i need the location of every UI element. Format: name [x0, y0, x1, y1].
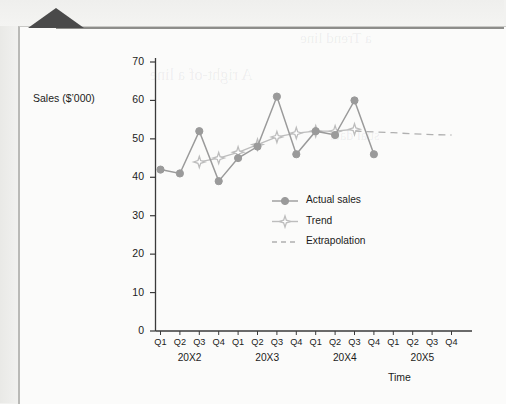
- y-tick-label: 70: [118, 55, 144, 67]
- year-group-label: 20X2: [160, 352, 220, 363]
- quarter-tick-label: Q3: [422, 337, 442, 347]
- y-tick-label: 0: [118, 324, 144, 336]
- series-trend: [194, 124, 360, 168]
- quarter-tick-label: Q3: [189, 337, 209, 347]
- quarter-tick-label: Q4: [442, 337, 462, 347]
- year-group-label: 20X5: [392, 352, 452, 363]
- quarter-tick-label: Q1: [151, 337, 171, 347]
- y-tick-label: 30: [118, 209, 144, 221]
- y-tick-label: 60: [118, 93, 144, 105]
- quarter-tick-label: Q2: [248, 337, 268, 347]
- series-extrapolation: [355, 131, 452, 135]
- y-axis-title: Sales ($’000): [33, 92, 95, 104]
- quarter-tick-label: Q3: [267, 337, 287, 347]
- quarter-tick-label: Q1: [228, 337, 248, 347]
- y-tick-label: 10: [118, 286, 144, 298]
- series-actual-sales: [157, 93, 378, 185]
- quarter-tick-label: Q3: [345, 337, 365, 347]
- y-tick-label: 20: [118, 247, 144, 259]
- year-group-label: 20X3: [237, 352, 297, 363]
- legend-item-label: Actual sales: [306, 194, 361, 205]
- x-axis-title: Time: [388, 371, 411, 383]
- quarter-tick-label: Q1: [306, 337, 326, 347]
- quarter-tick-label: Q2: [325, 337, 345, 347]
- quarter-tick-label: Q4: [364, 337, 384, 347]
- quarter-tick-label: Q1: [383, 337, 403, 347]
- quarter-tick-label: Q2: [403, 337, 423, 347]
- y-tick-label: 50: [118, 132, 144, 144]
- quarter-tick-label: Q4: [209, 337, 229, 347]
- legend-item-label: Extrapolation: [306, 235, 365, 246]
- y-tick-label: 40: [118, 170, 144, 182]
- quarter-tick-label: Q2: [170, 337, 190, 347]
- legend-glyphs: [272, 197, 298, 242]
- legend-item-label: Trend: [306, 215, 332, 226]
- quarter-tick-label: Q4: [286, 337, 306, 347]
- y-axis-ticks: [150, 62, 156, 331]
- year-group-label: 20X4: [315, 352, 375, 363]
